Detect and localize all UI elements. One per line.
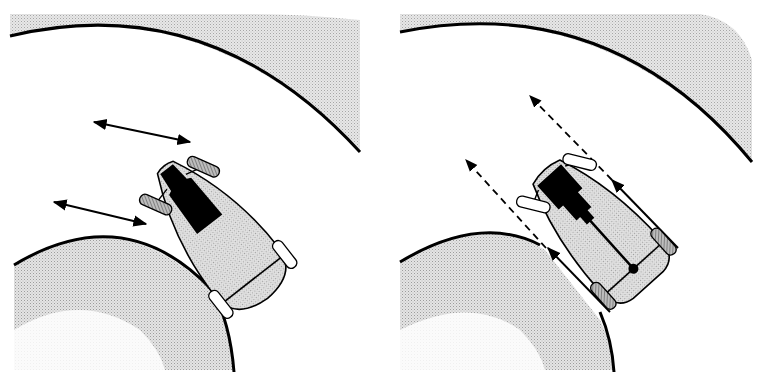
outer-verge xyxy=(400,14,752,160)
outer-verge xyxy=(10,14,360,150)
diagram-stage: Two overhead views of a car cornering on… xyxy=(0,0,762,377)
front-force-arrow-upper xyxy=(94,122,190,142)
left-panel xyxy=(10,14,360,372)
cornering-diagram xyxy=(0,0,762,377)
front-force-arrow-lower xyxy=(54,202,146,224)
right-panel xyxy=(400,14,752,372)
